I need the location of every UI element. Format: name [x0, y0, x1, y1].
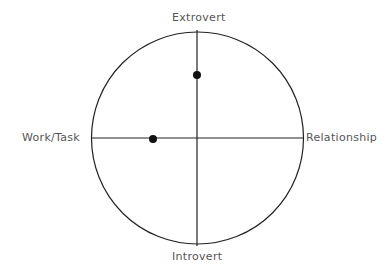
label-extrovert: Extrovert [172, 11, 226, 24]
point-1 [193, 71, 201, 79]
label-work-task: Work/Task [22, 131, 80, 144]
label-relationship: Relationship [306, 131, 377, 144]
label-introvert: Introvert [172, 250, 222, 263]
point-2 [149, 135, 157, 143]
